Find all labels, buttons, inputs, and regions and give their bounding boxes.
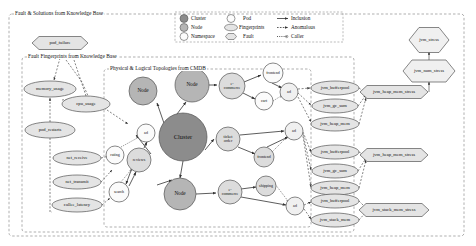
- legend-label-fingerprints: Fingerprints: [239, 25, 264, 30]
- topology-shapes: [106, 63, 304, 215]
- diagram-canvas: [0, 0, 476, 246]
- legend-label-pod: Pod: [243, 16, 251, 21]
- legend-label-caller: Caller: [291, 34, 304, 39]
- legend-label-anomalous: Anomalous: [291, 25, 315, 30]
- legend-label-cluster: Cluster: [191, 16, 206, 21]
- diagram-root: Fault & Solutions from Knowledge Base Fa…: [0, 0, 476, 246]
- legend-label-node: Node: [191, 25, 202, 30]
- panel-title-topologies: Physical & Logical Topologies from CMDB: [109, 66, 207, 71]
- legend-label-fault: Fault: [243, 34, 254, 39]
- panel-title-fault-fingerprints: Fault Fingerprints from Knowledge Base: [27, 54, 118, 59]
- panel-title-fault-solutions: Fault & Solutions from Knowledge Base: [14, 11, 104, 16]
- legend-label-namespace: Namespace: [191, 34, 215, 39]
- legend-label-inclusion: Inclusion: [291, 16, 310, 21]
